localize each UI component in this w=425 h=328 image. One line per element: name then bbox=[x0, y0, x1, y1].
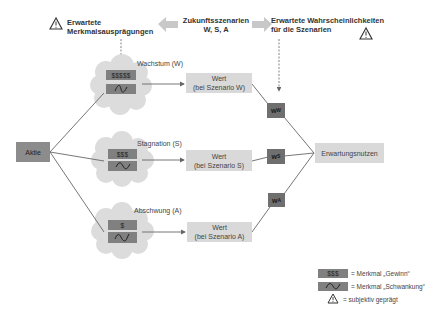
gain-value-s: $$$ bbox=[117, 150, 128, 159]
volatility-feature-a bbox=[108, 232, 137, 243]
legend-gain-swatch: $$$ bbox=[318, 269, 348, 278]
value-node-s: Wert (bei Szenario S) bbox=[186, 150, 252, 171]
gain-feature-a: $ bbox=[108, 220, 137, 230]
root-node-aktie: Aktie bbox=[16, 142, 50, 162]
header-right-label: Erwartete Wahrscheinlichkeiten für die S… bbox=[271, 16, 384, 34]
value-a-line2: (bei Szenario A) bbox=[195, 232, 245, 241]
gain-feature-w: $$$$$ bbox=[106, 70, 136, 80]
volatility-feature-s bbox=[108, 161, 137, 171]
header-right-line1: Erwartete Wahrscheinlichkeiten bbox=[271, 16, 384, 25]
weight-node-a: wA bbox=[268, 193, 285, 207]
value-a-line1: Wert bbox=[195, 223, 245, 232]
gain-value-w: $$$$$ bbox=[111, 71, 130, 80]
legend-gain-text: = Merkmal „Gewinn“ bbox=[351, 269, 410, 278]
legend-volatility-text: = Merkmal „Schwankung“ bbox=[351, 282, 425, 291]
gain-value-a: $ bbox=[121, 221, 125, 230]
value-node-a: Wert (bei Szenario A) bbox=[187, 222, 252, 242]
root-label: Aktie bbox=[25, 148, 41, 157]
warning-triangle-icon bbox=[50, 18, 62, 29]
weight-node-w: wW bbox=[267, 103, 285, 118]
wave-medium-icon bbox=[115, 162, 131, 170]
legend-gain-swatch-text: $$$ bbox=[327, 269, 338, 278]
weight-s-subscript: S bbox=[277, 152, 280, 161]
result-node-erwartungsnutzen: Erwartungsnutzen bbox=[315, 143, 384, 163]
weight-node-s: wS bbox=[267, 149, 285, 164]
value-s-line1: Wert bbox=[194, 152, 244, 161]
value-w-line2: (bei Szenario W) bbox=[193, 83, 245, 92]
wave-icon bbox=[325, 283, 341, 290]
value-node-w: Wert (bei Szenario W) bbox=[186, 73, 252, 93]
legend-subjective-text: = subjektiv geprägt bbox=[343, 295, 398, 304]
weight-a-subscript: A bbox=[277, 196, 281, 205]
gain-feature-s: $$$ bbox=[108, 149, 137, 159]
result-label: Erwartungsnutzen bbox=[321, 149, 377, 158]
weight-w-subscript: W bbox=[276, 106, 281, 115]
wave-large-icon bbox=[114, 233, 132, 242]
scenario-label-s: Stagnation (S) bbox=[137, 139, 182, 148]
scenario-label-a: Abschwung (A) bbox=[134, 206, 181, 215]
scenario-label-w: Wachstum (W) bbox=[137, 59, 183, 68]
header-center-line1: Zukunftsszenarien bbox=[180, 16, 252, 25]
header-left-label: Erwartete Merkmalsausprägungen bbox=[67, 18, 153, 36]
value-s-line2: (bei Szenario S) bbox=[194, 161, 244, 170]
header-right-line2: für die Szenarien bbox=[271, 25, 384, 34]
header-left-line2: Merkmalsausprägungen bbox=[67, 27, 153, 36]
header-left-line1: Erwartete bbox=[67, 18, 153, 27]
header-center-label: Zukunftsszenarien W, S, A bbox=[180, 16, 252, 34]
legend-volatility-swatch bbox=[318, 282, 348, 291]
header-center-line2: W, S, A bbox=[180, 25, 252, 34]
value-w-line1: Wert bbox=[193, 74, 245, 83]
arrow-left-icon bbox=[158, 17, 178, 32]
arrow-right-icon bbox=[252, 17, 272, 32]
wave-small-icon bbox=[114, 85, 128, 93]
warning-triangle-icon bbox=[327, 293, 339, 304]
volatility-feature-w bbox=[106, 84, 136, 94]
